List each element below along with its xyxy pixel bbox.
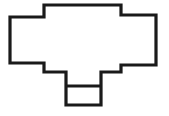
t-shape-outline-drawing bbox=[0, 0, 169, 116]
figure-canvas: T-shaped bracket outline drawing Central… bbox=[0, 0, 169, 116]
